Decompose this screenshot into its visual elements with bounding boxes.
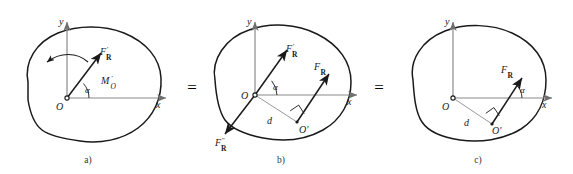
rigid-body-outline <box>214 25 351 140</box>
distance-label-d: d <box>267 115 273 126</box>
svg-text:′: ′ <box>111 74 113 82</box>
x-axis-label: x <box>346 96 352 107</box>
rigid-body-outline <box>27 27 161 142</box>
right-angle-marker <box>290 105 304 114</box>
force-label-fr-prime: F ′ R <box>285 42 298 60</box>
origin-point <box>253 93 257 97</box>
moment-label-mo-prime: M ′ O <box>100 74 117 92</box>
angle-label-alpha: α <box>273 82 278 92</box>
panel-caption-c: c) <box>474 155 481 166</box>
force-label-fr: F R <box>500 64 514 80</box>
origin-label: O <box>56 101 63 112</box>
svg-text:R: R <box>292 50 298 59</box>
y-axis-label: y <box>444 16 450 27</box>
moment-arm-d <box>453 98 492 124</box>
distance-label-d: d <box>464 117 470 128</box>
force-label-fr-double-prime: F ″ R <box>214 136 227 154</box>
svg-text:R: R <box>221 144 227 153</box>
point-o-prime-label: O′ <box>299 124 309 135</box>
equals-sign-2: = <box>370 78 388 98</box>
panel-b: y x O O′ α d F ′ R F R F ″ R b) <box>193 0 383 174</box>
x-axis-label: x <box>155 99 161 110</box>
point-o-prime-label: O′ <box>492 125 502 136</box>
force-vector-fr <box>492 78 522 124</box>
moment-arm-d <box>255 95 297 122</box>
origin-point <box>65 96 69 100</box>
x-axis-label: x <box>541 99 547 110</box>
svg-text:″: ″ <box>222 136 225 144</box>
force-vector-fr-double-prime <box>225 95 255 134</box>
origin-label: O <box>241 90 248 101</box>
svg-text:′: ′ <box>107 45 109 53</box>
panel-caption-a: a) <box>84 155 91 166</box>
angle-label-alpha: α <box>85 85 90 95</box>
y-axis-label: y <box>58 16 64 27</box>
svg-text:O: O <box>111 82 117 91</box>
origin-label: O <box>442 101 449 112</box>
force-vector-fr-prime <box>255 50 287 95</box>
svg-text:R: R <box>321 68 327 77</box>
panel-c: y x O O′ α d F R c) <box>388 0 573 174</box>
svg-text:R: R <box>508 71 514 80</box>
force-label-fr: F R <box>313 61 327 77</box>
panel-caption-b: b) <box>277 155 285 166</box>
angle-label-alpha: α <box>520 85 525 95</box>
force-vector-fr-prime <box>67 53 101 98</box>
svg-text:′: ′ <box>293 42 295 50</box>
force-couple-reduction-figure: y x O α F ′ R M ′ O a) = <box>0 0 573 174</box>
force-vector-fr <box>297 74 329 122</box>
force-label-fr-prime: F ′ R <box>99 45 112 63</box>
y-axis-label: y <box>246 16 252 27</box>
svg-text:M: M <box>100 75 110 86</box>
svg-text:R: R <box>106 53 112 62</box>
rigid-body-outline <box>412 26 546 142</box>
origin-point <box>451 96 455 100</box>
panel-a: y x O α F ′ R M ′ O a) <box>0 0 190 174</box>
